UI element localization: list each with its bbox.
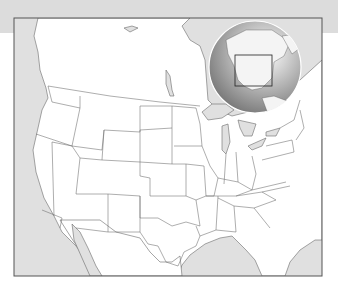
us-outline-map [0, 0, 338, 292]
map-figure [0, 0, 338, 292]
